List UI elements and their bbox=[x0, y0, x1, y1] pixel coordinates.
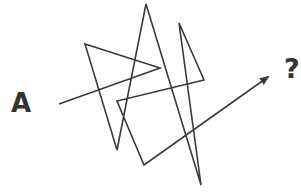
start-label: A bbox=[11, 90, 31, 116]
tangled-path-line bbox=[59, 4, 268, 185]
end-question-label: ? bbox=[284, 55, 300, 82]
diagram-canvas: A ? bbox=[0, 0, 301, 193]
tangled-path-diagram bbox=[0, 0, 301, 193]
